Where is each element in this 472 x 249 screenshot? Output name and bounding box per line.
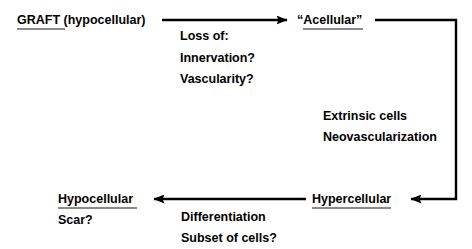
node-hypercellular-underline	[312, 207, 391, 209]
annotation-loss-of-line-2: Innervation?	[180, 52, 255, 65]
node-hypocellular: Hypocellular	[58, 192, 133, 208]
annotation-differentiation-line-1: Differentiation	[181, 211, 266, 224]
node-graft-underline	[17, 28, 65, 30]
annotation-extrinsic-line-2: Neovascularization	[323, 131, 437, 144]
node-hypocellular-subtext: Scar?	[58, 213, 93, 227]
node-hypocellular-emphasis: Hypocellular	[58, 192, 133, 206]
node-graft-emphasis: GRAFT	[17, 13, 60, 27]
node-acellular: “Acellular”	[297, 13, 362, 29]
annotation-extrinsic-line-1: Extrinsic cells	[323, 110, 407, 123]
node-hypercellular: Hypercellular	[312, 192, 391, 208]
node-acellular-underline	[303, 28, 363, 30]
node-graft: GRAFT (hypocellular)	[17, 13, 146, 29]
annotation-differentiation-line-2: Subset of cells?	[181, 232, 277, 245]
node-hypocellular-underline	[58, 207, 137, 209]
node-graft-qualifier: (hypocellular)	[60, 13, 145, 27]
diagram-canvas: GRAFT (hypocellular) “Acellular” Hyperce…	[0, 0, 472, 249]
node-acellular-emphasis: “Acellular”	[297, 13, 362, 27]
annotation-loss-of-line-1: Loss of:	[180, 30, 229, 43]
annotation-loss-of-line-3: Vascularity?	[180, 73, 254, 86]
node-hypercellular-emphasis: Hypercellular	[312, 192, 391, 206]
